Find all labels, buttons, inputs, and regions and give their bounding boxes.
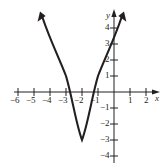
y-tick-label--4: −4 [100, 151, 110, 160]
y-tick-label--2: −2 [100, 119, 110, 128]
graph-figure: −6 −5 −4 −3 −2 −1 1 2 4 3 2 1 −1 −2 −3 −… [0, 0, 164, 166]
y-tick-label--3: −3 [100, 135, 110, 144]
x-tick-label-1: 1 [128, 96, 133, 105]
coordinate-plane [0, 0, 164, 166]
y-tick-label-1: 1 [105, 71, 110, 80]
x-axis [14, 89, 160, 94]
y-axis-label: y [106, 11, 110, 20]
x-tick-label--1: −1 [90, 96, 100, 105]
x-tick-label--5: −5 [26, 96, 36, 105]
y-tick-label-2: 2 [105, 55, 110, 64]
x-tick-label-2: 2 [144, 96, 149, 105]
x-axis-label: x [155, 94, 159, 103]
y-tick-label-3: 3 [105, 39, 110, 48]
x-tick-label--4: −4 [42, 96, 52, 105]
y-tick-label--1: −1 [100, 103, 110, 112]
x-tick-label--3: −3 [58, 96, 68, 105]
y-tick-label-4: 4 [105, 23, 110, 32]
x-tick-label--2: −2 [74, 96, 84, 105]
x-tick-label--6: −6 [10, 96, 20, 105]
